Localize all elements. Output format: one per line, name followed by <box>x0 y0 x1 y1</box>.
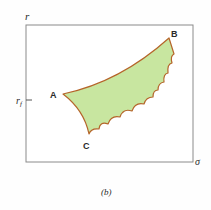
point-label-a: A <box>50 90 57 100</box>
y-axis-label: r <box>25 10 30 22</box>
rf-tick-label: rf <box>16 95 23 108</box>
stress-region-diagram: r rf σ A B C (b) <box>0 0 211 210</box>
point-label-c: C <box>83 141 90 151</box>
x-axis-label: σ <box>195 156 201 167</box>
point-label-b: B <box>171 29 178 39</box>
figure-caption: (b) <box>101 187 112 197</box>
